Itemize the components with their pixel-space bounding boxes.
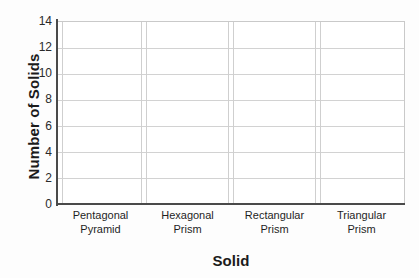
y-axis-line bbox=[56, 19, 58, 206]
x-tick-label-hexagonal-prism: Hexagonal Prism bbox=[144, 208, 231, 248]
label-line-1: Rectangular bbox=[231, 208, 318, 222]
y-tick-label: 14 bbox=[16, 14, 52, 28]
y-axis-tick-labels: 14 12 10 8 6 4 2 0 bbox=[12, 21, 52, 204]
y-tick-label: 8 bbox=[16, 92, 52, 106]
y-tick-label: 2 bbox=[16, 171, 52, 185]
plot-area bbox=[57, 21, 405, 204]
label-line-2: Prism bbox=[318, 222, 405, 236]
y-tick-label: 12 bbox=[16, 40, 52, 54]
x-tick-label-rectangular-prism: Rectangular Prism bbox=[231, 208, 318, 248]
x-axis-category-labels: Pentagonal Pyramid Hexagonal Prism Recta… bbox=[57, 208, 405, 248]
label-line-1: Pentagonal bbox=[57, 208, 144, 222]
y-tick-label: 10 bbox=[16, 66, 52, 80]
bar-chart: Number of Solids 14 12 10 8 6 4 2 0 bbox=[0, 0, 419, 278]
bars-layer bbox=[57, 22, 404, 204]
bar-slot bbox=[144, 22, 231, 204]
x-tick-label-triangular-prism: Triangular Prism bbox=[318, 208, 405, 248]
x-axis-line bbox=[56, 203, 405, 205]
x-axis-title: Solid bbox=[57, 252, 405, 269]
bar-slot bbox=[317, 22, 404, 204]
y-tick-label: 6 bbox=[16, 119, 52, 133]
bar-slot bbox=[231, 22, 318, 204]
label-line-2: Prism bbox=[231, 222, 318, 236]
y-tick-label: 0 bbox=[16, 197, 52, 211]
x-tick-label-pentagonal-pyramid: Pentagonal Pyramid bbox=[57, 208, 144, 248]
label-line-2: Prism bbox=[144, 222, 231, 236]
label-line-2: Pyramid bbox=[57, 222, 144, 236]
y-tick-label: 4 bbox=[16, 145, 52, 159]
bar-slot bbox=[57, 22, 144, 204]
label-line-1: Triangular bbox=[318, 208, 405, 222]
label-line-1: Hexagonal bbox=[144, 208, 231, 222]
